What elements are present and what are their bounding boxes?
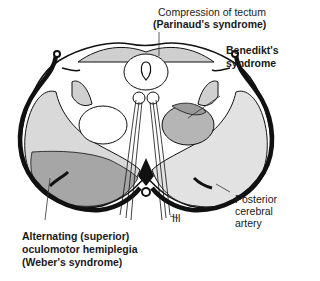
artery-label-line2: cerebral bbox=[235, 205, 273, 217]
left-red-nucleus bbox=[79, 106, 127, 144]
nerve-label: III bbox=[172, 212, 181, 224]
weber-label-line2: oculomotor hemiplegia bbox=[22, 243, 138, 255]
left-artery-end bbox=[54, 51, 60, 57]
weber-label-line3: (Weber's syndrome) bbox=[22, 256, 122, 268]
tectum-label-line1: Compression of tectum bbox=[158, 6, 266, 18]
artery-label-line3: artery bbox=[235, 217, 262, 229]
weber-label-line1: Alternating (superior) bbox=[22, 230, 129, 242]
tectum-label-line2: (Parinaud's syndrome) bbox=[153, 18, 266, 30]
benedikt-label-line2: syndrome bbox=[226, 57, 276, 69]
artery-label-line1: Posterior bbox=[235, 193, 277, 205]
basilar-vessel bbox=[142, 188, 150, 196]
benedikt-label-line1: Benedikt's bbox=[226, 44, 279, 56]
